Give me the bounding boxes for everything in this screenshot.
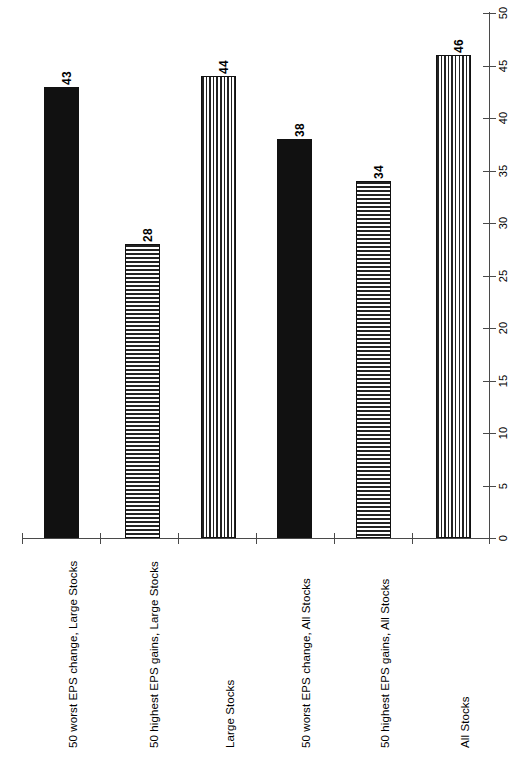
bar <box>201 76 236 538</box>
bar-value-label: 38 <box>294 123 306 137</box>
value-axis-tick <box>483 66 496 67</box>
category-label: Large Stocks <box>224 680 236 748</box>
category-label: 50 worst EPS change, Large Stocks <box>67 561 79 748</box>
value-axis-tick-label: 40 <box>498 98 509 138</box>
bar <box>44 87 79 539</box>
category-axis-tick <box>256 533 257 544</box>
category-label: 50 worst EPS change, All Stocks <box>300 578 312 748</box>
category-axis-tick <box>334 533 335 544</box>
value-axis-tick-label: 5 <box>498 466 509 506</box>
bar-value-label: 28 <box>142 228 154 242</box>
value-axis-tick-label: 10 <box>498 413 509 453</box>
bar <box>436 55 471 538</box>
category-axis-tick <box>178 533 179 544</box>
category-axis-tick <box>22 533 23 544</box>
bar-value-label: 46 <box>453 39 465 53</box>
category-axis-tick <box>489 533 490 544</box>
bar-value-label: 43 <box>61 71 73 85</box>
value-axis-tick <box>483 223 496 224</box>
value-axis-tick <box>483 276 496 277</box>
category-label: 50 highest EPS gains, Large Stocks <box>148 561 160 748</box>
value-axis-tick-label: 30 <box>498 203 509 243</box>
bar-value-label: 44 <box>218 60 230 74</box>
value-axis-tick <box>483 381 496 382</box>
value-axis-tick-label: 35 <box>498 151 509 191</box>
category-label: 50 highest EPS gains, All Stocks <box>379 579 391 748</box>
category-label: All Stocks <box>459 697 471 749</box>
value-axis-tick <box>483 328 496 329</box>
bar <box>277 139 312 538</box>
value-axis-tick <box>483 118 496 119</box>
value-axis-tick-label: 25 <box>498 256 509 296</box>
category-axis-tick <box>412 533 413 544</box>
value-axis-tick-label: 20 <box>498 308 509 348</box>
value-axis-tick-label: 15 <box>498 361 509 401</box>
bar-chart: 05101520253035404550 432844383446 50 wor… <box>0 0 524 761</box>
value-axis-tick-label: 45 <box>498 46 509 86</box>
value-axis-tick-label: 50 <box>498 0 509 33</box>
bar <box>125 244 160 538</box>
value-axis-tick <box>483 486 496 487</box>
value-axis-tick <box>483 13 496 14</box>
value-axis-tick-label: 0 <box>498 518 509 558</box>
bar <box>356 181 391 538</box>
value-axis-tick <box>483 433 496 434</box>
bar-value-label: 34 <box>373 165 385 179</box>
value-axis-tick <box>483 171 496 172</box>
category-axis-tick <box>100 533 101 544</box>
